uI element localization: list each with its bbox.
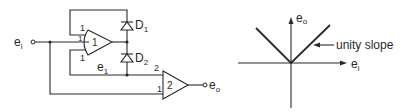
diagram-canvas: ei 1 1 1 D1 D2 1 e [0, 0, 404, 112]
y-axis-label: eo [296, 11, 308, 26]
absolute-value-circuit: ei 1 1 1 D1 D2 1 e [14, 10, 221, 99]
y-axis-arrow-icon [289, 17, 294, 24]
input-label: ei [14, 35, 23, 51]
input-terminal-icon [31, 40, 35, 44]
amp1-label: 1 [92, 37, 98, 48]
amp2-pin-top: 2 [154, 63, 159, 73]
annotation-arrow-icon [313, 43, 320, 48]
amp1-top-pin: 1 [80, 23, 85, 33]
e1-node-dot [125, 73, 128, 76]
unity-slope-annotation: unity slope [336, 38, 394, 52]
transfer-characteristic-graph: eo ei unity slope [238, 11, 394, 108]
amp1-side-pin: 1 [78, 34, 83, 43]
x-axis-arrow-icon [340, 61, 347, 66]
e1-node-label: e1 [97, 60, 109, 76]
diode-d2-icon [121, 54, 133, 62]
diode-d1-icon [121, 22, 133, 30]
amp1-bottom-pin: 1 [80, 53, 85, 63]
amp2-pin-bottom: 1 [157, 84, 162, 94]
output-terminal-icon [203, 83, 207, 87]
diode-d1-label: D1 [135, 18, 149, 34]
x-axis-label: ei [351, 57, 360, 73]
output-label: eo [209, 78, 221, 94]
diode-d2-label: D2 [135, 51, 149, 67]
amp2-label: 2 [167, 80, 173, 91]
